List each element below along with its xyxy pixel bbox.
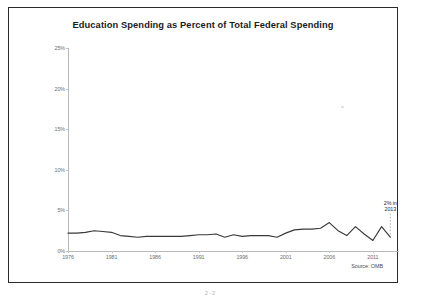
page-background: Education Spending as Percent of Total F… (0, 0, 421, 296)
x-tick-label: 1976 (62, 254, 74, 260)
y-tick-label: 25% (55, 45, 66, 51)
chart-title: Education Spending as Percent of Total F… (9, 20, 397, 30)
x-tick-mark (329, 251, 330, 253)
annotation-callout: 2% in 2013 (377, 200, 403, 213)
x-tick-label: 2006 (324, 254, 336, 260)
y-tick-label: 15% (55, 126, 66, 132)
plot-area: 0%5%10%15%20%25% 19761981198619911996200… (68, 48, 399, 251)
x-tick-mark (112, 251, 113, 253)
x-tick-mark (286, 251, 287, 253)
x-tick-mark (373, 251, 374, 253)
x-tick-mark (68, 251, 69, 253)
x-tick-mark (242, 251, 243, 253)
data-series-line (68, 48, 399, 251)
x-tick-label: 2011 (367, 254, 378, 260)
source-note: Source: OMB (351, 263, 383, 269)
x-tick-label: 1991 (193, 254, 205, 260)
x-tick-mark (155, 251, 156, 253)
x-tick-label: 2001 (280, 254, 292, 260)
y-tick-label: 5% (57, 207, 65, 213)
x-tick-label: 1986 (149, 254, 161, 260)
x-tick-label: 1996 (236, 254, 248, 260)
x-axis-line (68, 251, 399, 252)
scan-speck-artifact (341, 106, 344, 108)
y-tick-label: 20% (55, 86, 66, 92)
figure-frame: Education Spending as Percent of Total F… (8, 7, 398, 283)
y-tick-label: 10% (55, 167, 66, 173)
x-tick-label: 1981 (106, 254, 118, 260)
page-footer-mark: 2-2 (205, 290, 217, 296)
x-tick-mark (199, 251, 200, 253)
